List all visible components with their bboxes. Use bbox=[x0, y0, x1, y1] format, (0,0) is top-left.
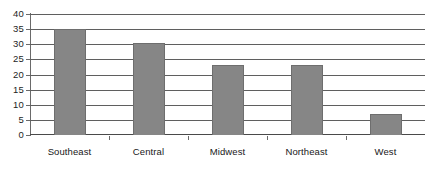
x-tick-2 bbox=[188, 136, 189, 140]
x-tick-label-midwest: Midwest bbox=[188, 146, 267, 157]
x-tick-4 bbox=[346, 136, 347, 140]
y-tick-label-0: 0 bbox=[0, 130, 24, 140]
x-tick-label-central: Central bbox=[109, 146, 188, 157]
x-tick-label-northeast: Northeast bbox=[267, 146, 346, 157]
y-tick-label-25: 25 bbox=[0, 54, 24, 64]
bar-midwest bbox=[212, 65, 244, 135]
bar-northeast bbox=[291, 65, 323, 135]
y-tick-label-35: 35 bbox=[0, 24, 24, 34]
bar-southeast bbox=[54, 29, 86, 135]
x-tick-1 bbox=[109, 136, 110, 140]
gridline-35 bbox=[30, 29, 425, 30]
plot-area bbox=[30, 14, 425, 135]
gridline-25 bbox=[30, 59, 425, 60]
gridline-40 bbox=[30, 14, 425, 15]
gridline-30 bbox=[30, 44, 425, 45]
bar-west bbox=[370, 114, 402, 135]
x-tick-label-southeast: Southeast bbox=[30, 146, 109, 157]
x-tick-label-west: West bbox=[346, 146, 425, 157]
y-tick-label-5: 5 bbox=[0, 115, 24, 125]
y-tick-label-40: 40 bbox=[0, 9, 24, 19]
y-tick-label-20: 20 bbox=[0, 70, 24, 80]
bar-chart: 0510152025303540 SoutheastCentralMidwest… bbox=[0, 0, 434, 171]
bar-central bbox=[133, 43, 165, 135]
x-tick-3 bbox=[267, 136, 268, 140]
y-tick-0 bbox=[26, 135, 30, 136]
y-tick-label-15: 15 bbox=[0, 85, 24, 95]
y-tick-label-10: 10 bbox=[0, 100, 24, 110]
y-tick-label-30: 30 bbox=[0, 39, 24, 49]
